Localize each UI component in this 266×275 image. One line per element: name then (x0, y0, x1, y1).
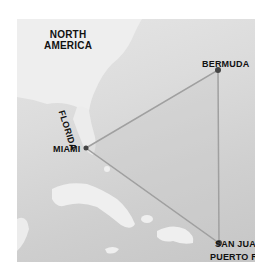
hispaniola-land (157, 226, 193, 243)
cuba-land (52, 183, 135, 228)
map-graphic (17, 19, 255, 262)
label-puerto-rico: PUERTO RICO (210, 252, 255, 262)
label-san-juan: SAN JUAN (215, 239, 255, 249)
label-bermuda: BERMUDA (202, 59, 249, 69)
label-america: AMERICA (44, 40, 92, 51)
bermuda-triangle (86, 70, 219, 243)
label-miami: MIAMI (53, 144, 81, 154)
label-north-america: NORTH AMERICA (44, 29, 92, 51)
miami-marker-icon (84, 146, 89, 151)
yucatan-land (17, 218, 29, 251)
map: NORTH AMERICA FLORIDA MIAMI BERMUDA SAN … (17, 19, 255, 262)
jamaica-land (105, 247, 119, 254)
label-north: NORTH (44, 29, 92, 40)
